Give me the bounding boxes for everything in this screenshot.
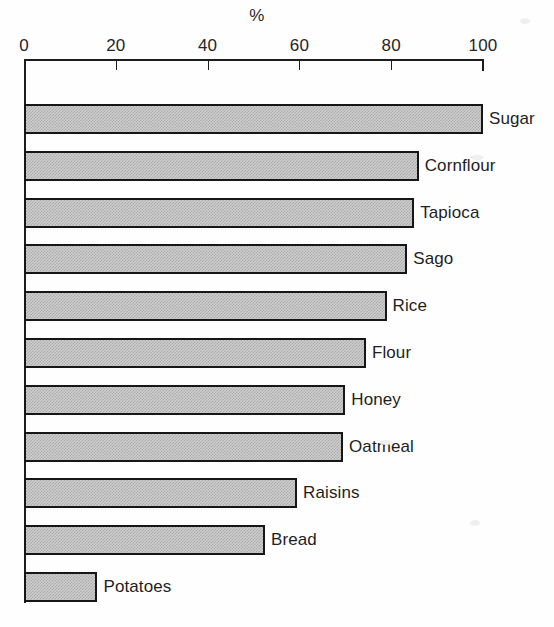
bar-row: Sago: [24, 244, 554, 274]
bar-honey[interactable]: [24, 385, 345, 415]
bar-label-flour: Flour: [372, 343, 411, 363]
bar-row: Rice: [24, 291, 554, 321]
bar-label-potatoes: Potatoes: [103, 577, 171, 597]
bar-row: Honey: [24, 385, 554, 415]
bar-label-rice: Rice: [393, 296, 427, 316]
bar-oatmeal[interactable]: [24, 432, 343, 462]
bar-label-sugar: Sugar: [489, 109, 535, 129]
bar-label-oatmeal: Oatmeal: [349, 436, 414, 456]
bar-cornflour[interactable]: [24, 151, 419, 181]
bar-raisins[interactable]: [24, 478, 297, 508]
bar-label-tapioca: Tapioca: [420, 202, 479, 222]
bar-rice[interactable]: [24, 291, 387, 321]
bar-label-raisins: Raisins: [303, 483, 359, 503]
bar-flour[interactable]: [24, 338, 366, 368]
bar-label-bread: Bread: [271, 530, 317, 550]
bar-row: Cornflour: [24, 151, 554, 181]
bar-row: Flour: [24, 338, 554, 368]
bar-row: Sugar: [24, 104, 554, 134]
bar-label-sago: Sago: [413, 249, 453, 269]
bar-sago[interactable]: [24, 244, 407, 274]
bar-potatoes[interactable]: [24, 572, 97, 602]
bar-label-honey: Honey: [351, 389, 401, 409]
bar-row: Oatmeal: [24, 432, 554, 462]
bar-label-cornflour: Cornflour: [425, 155, 496, 175]
bar-chart: % 020406080100 SugarCornflourTapiocaSago…: [0, 0, 554, 627]
bar-row: Bread: [24, 525, 554, 555]
bar-row: Raisins: [24, 478, 554, 508]
bar-sugar[interactable]: [24, 104, 483, 134]
plot-area: SugarCornflourTapiocaSagoRiceFlourHoneyO…: [0, 0, 554, 627]
bar-bread[interactable]: [24, 525, 265, 555]
bar-row: Potatoes: [24, 572, 554, 602]
bar-row: Tapioca: [24, 198, 554, 228]
bar-tapioca[interactable]: [24, 198, 414, 228]
